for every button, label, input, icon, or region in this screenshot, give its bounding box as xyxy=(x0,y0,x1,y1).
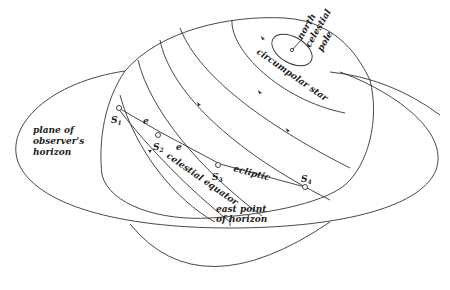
star-s2 xyxy=(156,133,161,138)
east-point-label-line2: of horizon xyxy=(216,214,267,224)
star-s2-label: S2 xyxy=(153,142,164,153)
horizon-label-line3: horizon xyxy=(33,147,71,157)
star-s1-label: S1 xyxy=(111,115,122,126)
star-s4 xyxy=(303,185,308,190)
east-point-label-line1: east point xyxy=(216,204,267,214)
sphere-outline xyxy=(101,18,374,219)
sphere-lower-arc xyxy=(130,222,330,267)
star-s4-label: S4 xyxy=(301,174,312,185)
arrow-icon xyxy=(148,150,152,153)
star-s3 xyxy=(216,163,221,168)
arrow-icon xyxy=(286,128,290,132)
arrow-icon xyxy=(258,90,262,94)
horizon-label-line1: plane of xyxy=(33,125,76,135)
horizon-label-line2: observer's xyxy=(33,136,84,146)
angle-e1-label: e xyxy=(143,116,149,126)
angle-e2-label: e xyxy=(176,142,182,152)
arrow-icon xyxy=(261,36,265,40)
star-s1 xyxy=(117,106,122,111)
north-pole-point xyxy=(290,48,293,51)
ecliptic-label: ecliptic xyxy=(232,163,271,182)
diurnal-circle-2 xyxy=(138,60,262,216)
celestial-sphere-diagram: S1 S2 S3 S4 e e plane of observer's hori… xyxy=(0,0,450,290)
